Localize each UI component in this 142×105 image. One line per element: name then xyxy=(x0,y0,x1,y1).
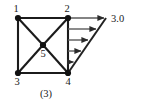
load-magnitude-label: 3.0 xyxy=(111,13,124,24)
node-label-3: 3 xyxy=(14,76,19,87)
member-4-5 xyxy=(43,45,68,73)
node-label-4: 4 xyxy=(65,76,71,87)
node-label-1: 1 xyxy=(13,3,18,14)
distributed-load-arrows xyxy=(68,18,104,62)
node-1 xyxy=(15,15,21,21)
figure-container: 1 2 3 4 5 3.0 (3) xyxy=(0,0,142,105)
node-label-5: 5 xyxy=(40,48,45,59)
figure-caption: (3) xyxy=(40,88,53,100)
node-2 xyxy=(65,15,71,21)
node-label-2: 2 xyxy=(64,3,69,14)
member-1-5 xyxy=(18,18,43,45)
structural-frame-figure: 1 2 3 4 5 3.0 (3) xyxy=(0,0,142,105)
load-envelope xyxy=(68,18,106,73)
member-3-5 xyxy=(18,45,43,73)
member-2-5 xyxy=(43,18,68,45)
load-envelope-hypotenuse xyxy=(68,18,106,73)
